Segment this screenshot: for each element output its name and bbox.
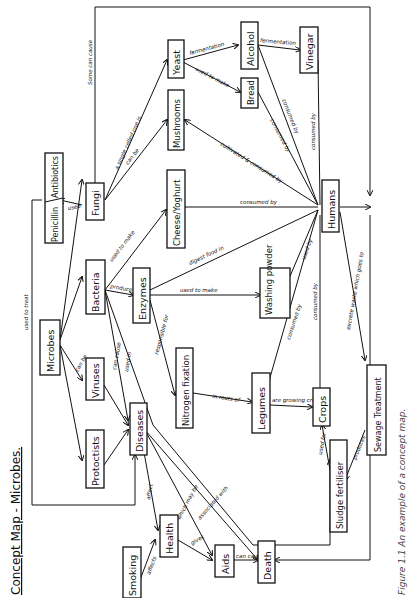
edge-label: produces <box>351 434 367 461</box>
svg-text:Crops: Crops <box>317 396 328 423</box>
edge-label: used to make <box>108 229 136 263</box>
node-mushrooms: Mushrooms <box>168 90 184 150</box>
svg-text:Mushrooms: Mushrooms <box>172 98 182 148</box>
edge-label: used to treat <box>23 294 29 330</box>
svg-text:Bacteria: Bacteria <box>90 273 101 313</box>
nodes: Microbes Viruses Protoctists Bacteria Fu… <box>40 22 386 598</box>
node-sewage-treatment: Sewage Treatment <box>367 365 386 455</box>
svg-text:Alcohol: Alcohol <box>245 31 256 66</box>
node-smoking: Smoking <box>123 547 141 598</box>
edge-label: used <box>67 203 82 211</box>
node-protoctists: Protoctists <box>86 430 104 488</box>
svg-text:Death: Death <box>262 551 273 580</box>
svg-text:Antibiotics: Antibiotics <box>51 156 60 198</box>
edge-label: can cause <box>111 341 122 370</box>
node-vinegar: Vinegar <box>300 27 318 73</box>
edge-label: cultivated & consumed by <box>219 141 285 186</box>
svg-text:Protoctists: Protoctists <box>90 436 101 486</box>
svg-text:Enzymes: Enzymes <box>137 277 148 320</box>
svg-text:Fungi: Fungi <box>90 190 101 216</box>
svg-text:Microbes: Microbes <box>45 330 56 372</box>
svg-text:Sludge fertiliser: Sludge fertiliser <box>335 461 345 529</box>
svg-text:Health: Health <box>164 523 175 554</box>
concept-map: Concept Map - Microbes. Figure 1.1 An ex… <box>0 0 413 598</box>
edge-label: used to make <box>195 66 232 89</box>
edge-label: Some can cause <box>87 39 93 85</box>
node-crops: Crops <box>313 388 330 426</box>
svg-text:Cheese/Yoghurt: Cheese/Yoghurt <box>172 179 182 246</box>
node-aids: Aids <box>215 545 234 577</box>
edge-label: responsible for <box>153 313 171 355</box>
svg-text:Nitrogen fixation: Nitrogen fixation <box>181 355 191 426</box>
edge-some-can-cause <box>95 7 370 195</box>
node-health: Health <box>160 515 178 557</box>
node-bacteria: Bacteria <box>86 260 105 314</box>
edge-label: used in <box>123 351 132 372</box>
svg-text:Aids: Aids <box>220 554 231 574</box>
edge-label: in roots of <box>212 393 241 403</box>
node-enzymes: Enzymes <box>133 268 150 323</box>
svg-text:Bread: Bread <box>246 80 256 105</box>
edge-label: consumed by <box>268 118 292 155</box>
node-cheese-yoghurt: Cheese/Yoghurt <box>167 170 185 248</box>
svg-text:Vinegar: Vinegar <box>304 33 315 70</box>
svg-text:Yeast: Yeast <box>171 50 182 76</box>
node-viruses: Viruses <box>86 358 104 400</box>
node-washing-powder: Washing powder <box>260 244 290 318</box>
edge-label: used by <box>300 237 314 261</box>
node-bread: Bread <box>241 78 258 108</box>
node-legumes: Legumes <box>252 373 270 433</box>
edge-label: gives <box>190 533 206 546</box>
svg-text:Viruses: Viruses <box>90 363 101 398</box>
node-nitrogen-fixation: Nitrogen fixation <box>176 348 193 428</box>
svg-text:Smoking: Smoking <box>127 555 138 596</box>
figure-caption: Figure 1.1 An example of a concept map. <box>397 409 407 595</box>
svg-text:Penicillin: Penicillin <box>51 207 60 242</box>
node-diseases: Diseases <box>130 403 147 455</box>
edge-label: consumed by <box>310 112 317 150</box>
edge-label: consumed by <box>280 98 301 136</box>
svg-text:Legumes: Legumes <box>256 387 267 430</box>
edge-label: associated with <box>196 484 229 520</box>
edge-label: consumed by <box>240 199 278 206</box>
node-sludge-fertiliser: Sludge fertiliser <box>330 440 347 532</box>
edges <box>32 7 370 580</box>
edge-label: used to make <box>180 287 218 293</box>
node-fungi: Fungi <box>86 183 104 220</box>
svg-text:Diseases: Diseases <box>134 410 145 452</box>
edge-label: consumed by <box>312 282 319 320</box>
edge-label: produce <box>109 283 134 294</box>
node-alcohol: Alcohol <box>241 22 258 69</box>
node-humans: Humans <box>322 180 339 232</box>
edge-label: affects <box>145 556 157 576</box>
svg-text:Humans: Humans <box>326 190 337 229</box>
node-yeast: Yeast <box>168 40 184 78</box>
svg-text:Washing powder: Washing powder <box>264 244 274 315</box>
edge-label: fermentation <box>260 37 297 46</box>
svg-text:Sewage Treatment: Sewage Treatment <box>374 377 383 452</box>
node-microbes: Microbes <box>40 320 60 375</box>
node-penicillin-antibiotics: Penicillin Antibiotics <box>45 153 63 243</box>
map-title: Concept Map - Microbes. <box>9 447 23 595</box>
node-death: Death <box>258 541 275 583</box>
